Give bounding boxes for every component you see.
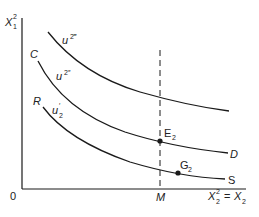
svg-text:=: = [224, 190, 230, 202]
point-e2 [157, 138, 162, 143]
svg-text:2: 2 [172, 134, 176, 141]
svg-text:2: 2 [216, 198, 220, 205]
point-g2-label: G 2 [180, 159, 192, 173]
curve-bottom-start-label: R [33, 95, 41, 107]
svg-text:X: X [233, 190, 242, 202]
svg-text:E: E [164, 127, 171, 139]
curve-bottom-label: u ′ 2 [52, 102, 63, 119]
svg-text:X: X [207, 190, 216, 202]
origin-label: 0 [10, 190, 16, 202]
point-e2-label: E 2 [164, 127, 176, 141]
svg-text:2‴: 2‴ [70, 33, 77, 40]
svg-text:u: u [52, 104, 58, 116]
svg-text:u: u [62, 34, 68, 46]
svg-text:2: 2 [188, 166, 192, 173]
x-axis-label: X 2 2 = X 2 [207, 188, 246, 205]
curve-middle-end-label: D [230, 148, 238, 160]
svg-text:X: X [4, 16, 13, 28]
indifference-curve-diagram: X 2 1 0 X 2 2 = X 2 M u 2‴ C D u 2″ R S … [0, 0, 259, 217]
curve-bottom-end-label: S [228, 174, 235, 186]
svg-text:2: 2 [59, 112, 63, 119]
curve-top-label: u 2‴ [62, 33, 77, 46]
svg-text:2: 2 [13, 13, 17, 20]
curve-middle-start-label: C [30, 48, 38, 60]
curve-top [48, 32, 229, 111]
svg-text:u: u [56, 70, 62, 82]
svg-text:2: 2 [242, 198, 246, 205]
svg-text:1: 1 [13, 23, 17, 30]
y-axis-label: X 2 1 [4, 13, 17, 30]
svg-text:2: 2 [216, 188, 220, 195]
curve-bottom [43, 107, 225, 179]
svg-text:′: ′ [59, 102, 61, 109]
m-label: M [156, 191, 166, 203]
point-g2 [175, 170, 180, 175]
curve-middle-label: u 2″ [56, 69, 71, 82]
svg-text:2″: 2″ [64, 69, 71, 76]
